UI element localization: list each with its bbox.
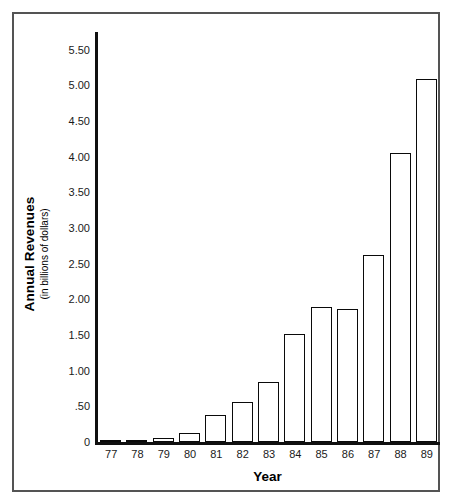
bars-layer: 77787980818283848586878889	[98, 32, 440, 442]
bar	[390, 153, 411, 442]
y-tick-label: 5.50	[69, 44, 90, 56]
plot-area: 5.505.004.504.003.503.002.502.001.501.00…	[95, 32, 440, 445]
bar	[100, 440, 121, 442]
bar	[337, 309, 358, 442]
bar	[258, 382, 279, 442]
bar-group: 80	[178, 29, 202, 442]
bar-group: 86	[336, 29, 360, 442]
bar	[232, 402, 253, 442]
x-tick-label: 78	[125, 448, 149, 460]
x-tick-label: 83	[257, 448, 281, 460]
y-tick-label: .50	[75, 400, 90, 412]
bar	[179, 433, 200, 442]
x-tick-label: 81	[204, 448, 228, 460]
bar	[126, 440, 147, 442]
bar	[153, 438, 174, 442]
y-axis-title: Annual Revenues (in billions of dollars)	[22, 14, 68, 494]
bar	[416, 79, 437, 442]
y-tick-label: 5.00	[69, 79, 90, 91]
x-tick-label: 77	[99, 448, 123, 460]
bar-group: 87	[362, 29, 386, 442]
y-tick-label: 1.00	[69, 365, 90, 377]
bar	[284, 334, 305, 442]
bar-group: 77	[99, 29, 123, 442]
y-tick-label: 3.50	[69, 186, 90, 198]
bar-group: 85	[310, 29, 334, 442]
y-tick-label: 3.00	[69, 222, 90, 234]
bar-group: 83	[257, 29, 281, 442]
bar-group: 82	[231, 29, 255, 442]
x-axis-line	[95, 442, 440, 445]
bar-group: 84	[283, 29, 307, 442]
bar-group: 88	[389, 29, 413, 442]
bar	[205, 415, 226, 442]
x-tick-label: 82	[231, 448, 255, 460]
x-tick-label: 87	[362, 448, 386, 460]
bar	[311, 307, 332, 442]
x-tick-label: 84	[283, 448, 307, 460]
y-tick-label: 4.50	[69, 115, 90, 127]
bar-group: 89	[415, 29, 439, 442]
x-axis-title: Year	[95, 469, 440, 484]
y-tick-label: 0	[84, 436, 90, 448]
bar-group: 78	[125, 29, 149, 442]
x-tick-label: 88	[389, 448, 413, 460]
y-tick-label: 2.50	[69, 258, 90, 270]
x-tick-label: 80	[178, 448, 202, 460]
bar-group: 79	[152, 29, 176, 442]
y-tick-label: 4.00	[69, 151, 90, 163]
x-tick-label: 79	[152, 448, 176, 460]
figure-frame: Annual Revenues (in billions of dollars)…	[12, 12, 440, 492]
x-tick-label: 89	[415, 448, 439, 460]
x-tick-label: 86	[336, 448, 360, 460]
x-tick-label: 85	[310, 448, 334, 460]
y-axis-title-sub: (in billions of dollars)	[39, 208, 51, 299]
y-axis-title-main: Annual Revenues	[22, 197, 38, 312]
bar-group: 81	[204, 29, 228, 442]
y-tick-label: 2.00	[69, 293, 90, 305]
y-tick-label: 1.50	[69, 329, 90, 341]
bar	[363, 255, 384, 442]
